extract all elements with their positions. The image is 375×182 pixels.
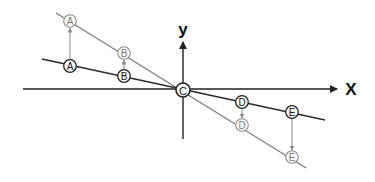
point-d-shallow: D	[236, 96, 249, 109]
point-a-steep: A	[64, 15, 77, 28]
point-a-shallow: A	[64, 60, 77, 73]
scaling-diagram: X y A A B B C D D E E	[0, 0, 375, 182]
svg-text:B: B	[121, 48, 128, 59]
y-axis-label: y	[178, 20, 188, 39]
x-axis-label: X	[345, 80, 357, 99]
svg-text:A: A	[67, 16, 74, 27]
svg-text:E: E	[289, 107, 296, 118]
point-b-steep: B	[118, 47, 131, 60]
svg-text:C: C	[179, 85, 187, 97]
svg-text:B: B	[121, 71, 128, 82]
point-d-steep: D	[236, 119, 249, 132]
svg-text:D: D	[238, 120, 245, 131]
point-e-steep: E	[286, 151, 299, 164]
svg-text:E: E	[289, 152, 296, 163]
point-e-shallow: E	[286, 106, 299, 119]
svg-text:D: D	[238, 97, 245, 108]
point-b-shallow: B	[118, 70, 131, 83]
point-c-origin: C	[176, 83, 190, 97]
svg-text:A: A	[67, 61, 74, 72]
